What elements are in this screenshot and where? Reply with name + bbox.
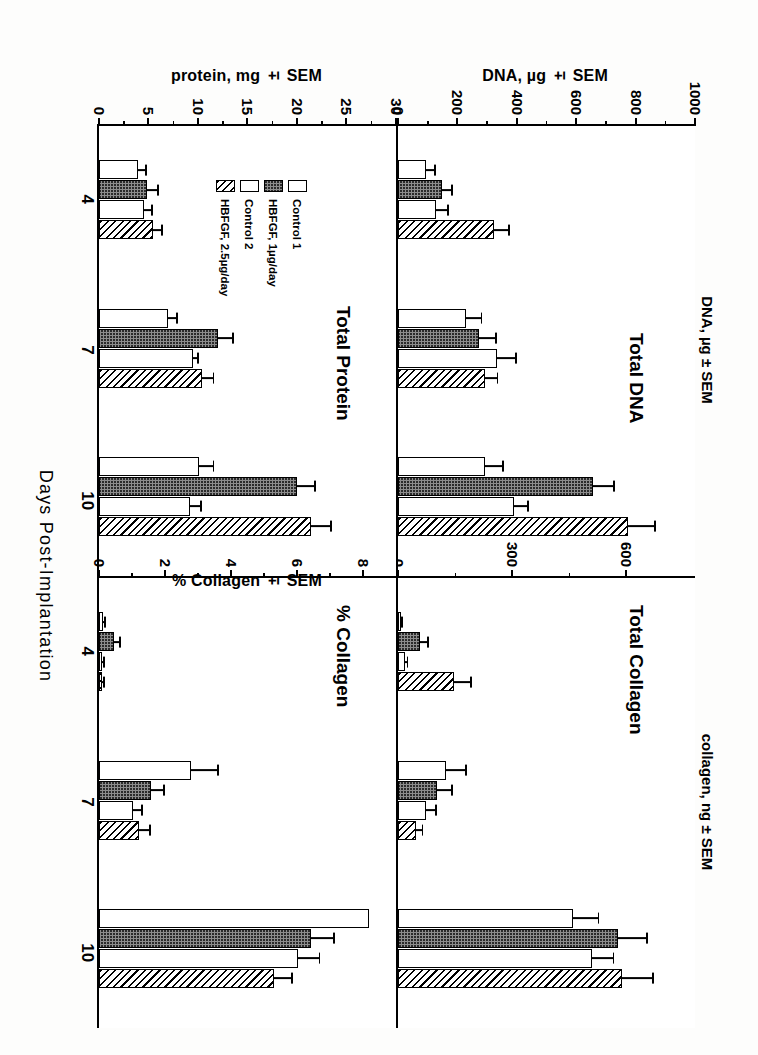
- error-bar: [297, 485, 316, 487]
- bar-group-day-7: [398, 758, 689, 842]
- bar-total-collagen-day10-s1: [398, 928, 689, 947]
- legend-label-control-1: Control 1: [291, 199, 303, 249]
- bar-total-dna-day4-s1: [398, 180, 689, 199]
- error-bar: [426, 169, 436, 171]
- bar-total-dna-day4-s2: [398, 200, 689, 219]
- error-bar: [485, 377, 498, 379]
- bar-rect: [398, 800, 426, 819]
- bar-rect: [398, 496, 514, 515]
- bar-rect: [398, 948, 592, 967]
- error-bar: [420, 641, 428, 643]
- bar-total-dna-day4-s0: [398, 160, 689, 179]
- error-bar: [405, 661, 409, 663]
- y-tick-label: 8: [354, 558, 371, 566]
- bar-rect: [398, 928, 618, 947]
- panel-title-total-dna: Total DNA: [625, 333, 647, 423]
- x-tick-label-day-10: 10: [77, 491, 97, 510]
- bar-total-protein-day10-s0: [99, 456, 390, 475]
- bar-rect: [99, 160, 138, 179]
- error-bar: [168, 317, 178, 319]
- bar-total-dna-day10-s2: [398, 496, 689, 515]
- bar-total-collagen-day7-s2: [398, 800, 689, 819]
- error-bar: [103, 621, 106, 623]
- bar-rect: [398, 516, 628, 535]
- x-tick-row-left: 4710: [63, 124, 97, 576]
- bar-group-day-10: [398, 906, 689, 990]
- error-bar: [479, 337, 496, 339]
- bar-total-collagen-day7-s0: [398, 760, 689, 779]
- legend-swatch-white2-icon: [240, 180, 259, 192]
- y-tick-label: 2: [156, 558, 173, 566]
- error-bar: [151, 789, 166, 791]
- bar-percent-collagen-day10-s1: [99, 928, 390, 947]
- bar-percent-collagen-day10-s3: [99, 968, 390, 987]
- bar-rect: [398, 672, 454, 691]
- figure-page: DNA, µg ± SEM collagen, ng ± SEM DNA, µg…: [0, 0, 758, 1055]
- panel-total-collagen: Total Collagen 0300600: [396, 576, 695, 1028]
- error-bar: [298, 957, 321, 959]
- error-bar: [114, 641, 121, 643]
- error-bar: [139, 829, 150, 831]
- bar-rect: [398, 780, 437, 799]
- error-bar: [426, 809, 437, 811]
- legend: Control 1 HBFGF, 1µg/day Control 2 HBFGF…: [216, 180, 307, 296]
- panel-title-total-collagen: Total Collagen: [625, 605, 647, 734]
- bar-rect: [398, 652, 405, 671]
- legend-item-control-2: Control 2: [240, 180, 259, 296]
- bar-rect: [99, 368, 202, 387]
- error-bar: [102, 681, 105, 683]
- bar-rect: [99, 308, 168, 327]
- bar-rect: [398, 456, 485, 475]
- bar-total-collagen-day7-s3: [398, 820, 689, 839]
- error-bar: [274, 977, 293, 979]
- x-tick-row-right: 4710: [63, 576, 97, 1028]
- bar-rect: [398, 348, 497, 367]
- error-bar: [199, 465, 215, 467]
- y-tick-label: 300: [504, 541, 521, 566]
- top-axis-title-dna: DNA, µg ± SEM: [695, 124, 729, 576]
- error-bar: [436, 209, 449, 211]
- y-tick-label: 1000: [687, 81, 704, 114]
- error-bar: [190, 505, 202, 507]
- error-bar: [153, 229, 163, 231]
- bar-total-protein-day10-s1: [99, 476, 390, 495]
- legend-label-control-2: Control 2: [243, 199, 255, 249]
- bar-rect: [99, 328, 218, 347]
- legend-item-hbfgf-25: HBFGF, 2.5µg/day: [216, 180, 235, 296]
- bar-total-protein-day10-s3: [99, 516, 390, 535]
- bar-total-collagen-day10-s0: [398, 908, 689, 927]
- error-bar: [193, 357, 199, 359]
- error-bar: [618, 937, 648, 939]
- bar-rect: [99, 760, 191, 779]
- error-bar: [622, 977, 654, 979]
- y-tick-label: 6: [289, 558, 306, 566]
- error-bar: [485, 465, 504, 467]
- bar-rect: [398, 200, 436, 219]
- bar-rect: [398, 308, 466, 327]
- error-bar: [454, 681, 472, 683]
- bar-group-day-10: [99, 454, 390, 538]
- bar-rect: [99, 200, 144, 219]
- legend-label-hbfgf-1: HBFGF, 1µg/day: [267, 199, 279, 287]
- x-tick-label-day-4: 4: [77, 194, 97, 203]
- y-tick-label: 200: [449, 89, 466, 114]
- bar-total-protein-day10-s2: [99, 496, 390, 515]
- bar-rect: [398, 820, 416, 839]
- bar-rect: [99, 476, 297, 495]
- bar-total-dna-day4-s3: [398, 220, 689, 239]
- xaxis-title: Days Post-Implantation: [29, 124, 63, 1028]
- error-bar: [311, 937, 335, 939]
- bar-rect: [99, 632, 114, 651]
- ylabel-cell-dna: DNA, µg ± SEM: [396, 28, 695, 124]
- y-tick-label: 400: [508, 89, 525, 114]
- error-bar: [138, 169, 147, 171]
- error-bar: [401, 621, 403, 623]
- error-bar: [592, 957, 614, 959]
- error-bar: [191, 769, 218, 771]
- error-bar: [593, 485, 615, 487]
- ylabel-dna: DNA, µg ± SEM: [483, 67, 609, 85]
- bar-total-protein-day4-s0: [99, 160, 390, 179]
- bar-rect: [99, 908, 369, 927]
- bar-total-dna-day7-s0: [398, 308, 689, 327]
- legend-label-hbfgf-25: HBFGF, 2.5µg/day: [219, 199, 231, 296]
